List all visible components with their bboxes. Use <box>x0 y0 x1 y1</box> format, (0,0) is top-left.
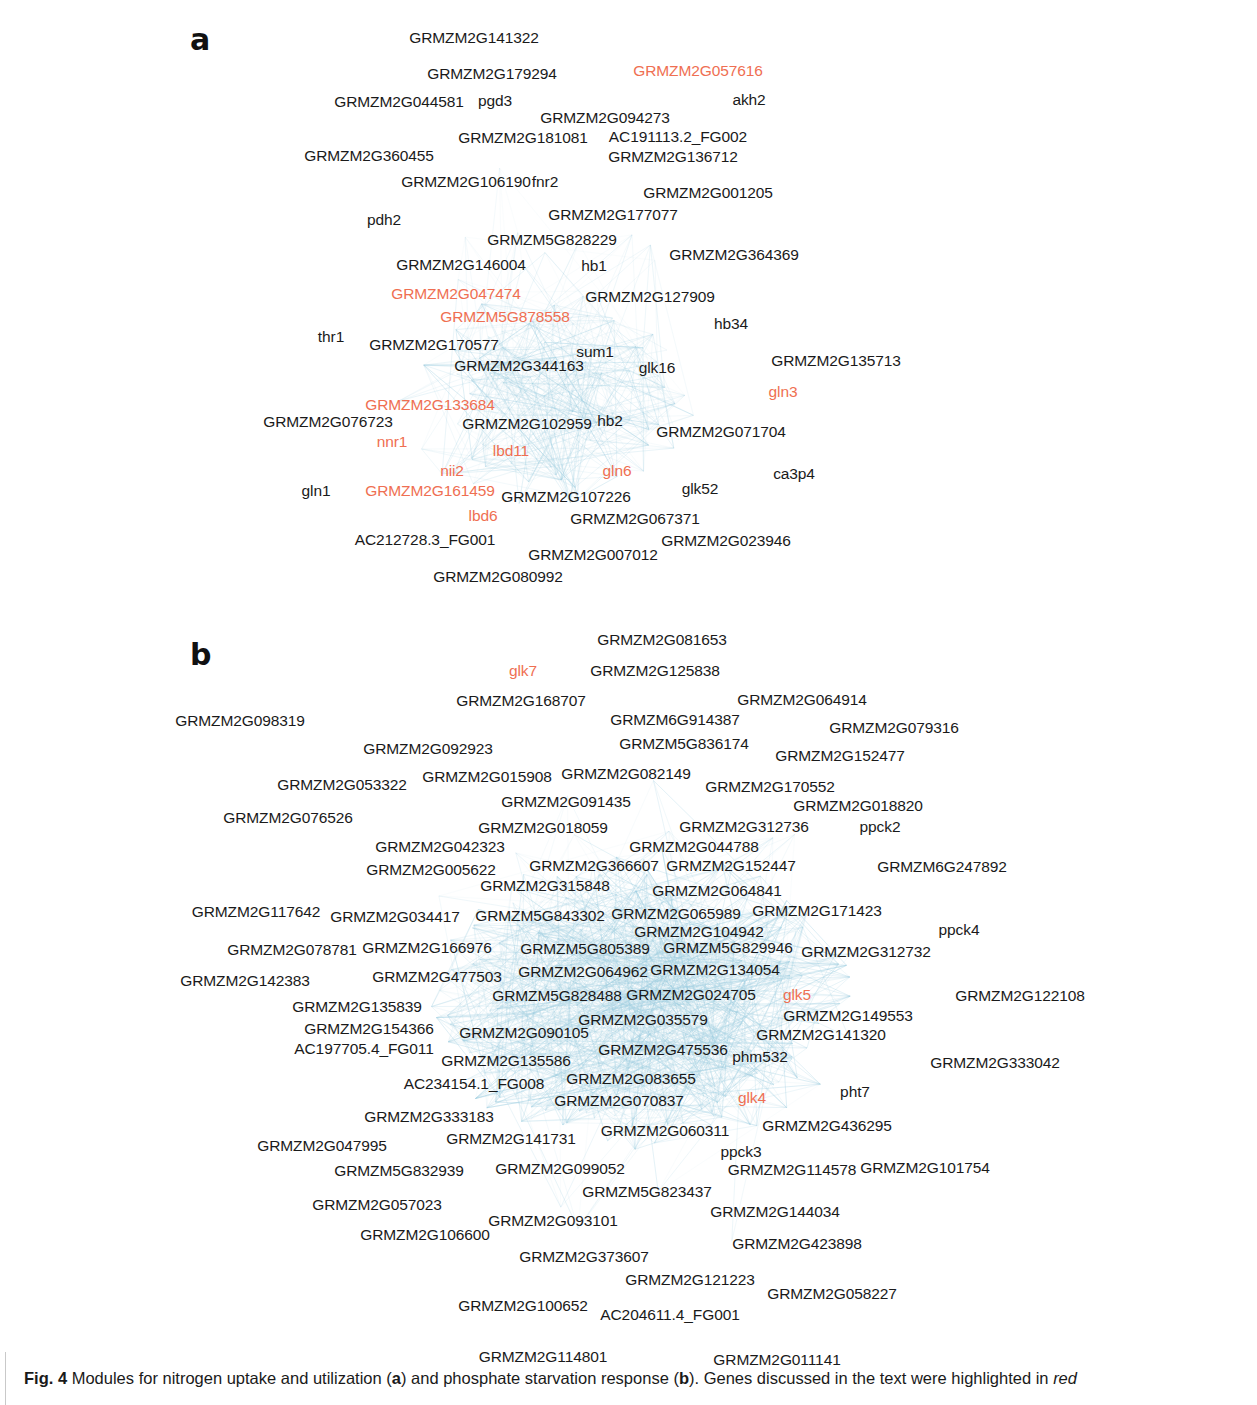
gene-node-label[interactable]: GRMZM5G832939 <box>334 1163 464 1179</box>
gene-node-label[interactable]: gln6 <box>603 463 632 479</box>
gene-node-label[interactable]: GRMZM2G333183 <box>364 1109 494 1125</box>
gene-node-label[interactable]: GRMZM2G060311 <box>601 1123 730 1139</box>
gene-node-label[interactable]: GRMZM2G117642 <box>192 904 321 920</box>
gene-node-label[interactable]: GRMZM2G064962 <box>518 964 648 980</box>
gene-node-label[interactable]: hb34 <box>714 316 748 332</box>
gene-node-label[interactable]: hb1 <box>581 258 607 274</box>
gene-node-label[interactable]: pht7 <box>840 1084 870 1100</box>
gene-node-label[interactable]: GRMZM2G065989 <box>611 906 741 922</box>
gene-node-label[interactable]: GRMZM2G171423 <box>752 903 882 919</box>
gene-node-label[interactable]: AC204611.4_FG001 <box>600 1307 739 1323</box>
gene-node-label[interactable]: GRMZM2G018820 <box>793 798 923 814</box>
gene-node-label[interactable]: GRMZM2G092923 <box>363 741 493 757</box>
gene-node-label[interactable]: GRMZM2G149553 <box>783 1008 913 1024</box>
gene-node-label[interactable]: glk52 <box>682 481 719 497</box>
gene-node-label[interactable]: GRMZM5G878558 <box>440 309 570 325</box>
gene-node-label[interactable]: GRMZM2G005622 <box>366 862 496 878</box>
gene-node-label[interactable]: GRMZM2G477503 <box>372 969 502 985</box>
gene-node-label[interactable]: GRMZM2G035579 <box>578 1012 708 1028</box>
gene-node-label[interactable]: GRMZM2G106600 <box>360 1227 490 1243</box>
gene-node-label[interactable]: GRMZM2G094273 <box>540 110 670 126</box>
gene-node-label[interactable]: AC191113.2_FG002 <box>609 129 747 145</box>
gene-node-label[interactable]: GRMZM2G078781 <box>227 942 357 958</box>
gene-node-label[interactable]: GRMZM2G093101 <box>488 1213 618 1229</box>
gene-node-label[interactable]: GRMZM2G152447 <box>666 858 796 874</box>
gene-node-label[interactable]: GRMZM2G360455 <box>304 148 434 164</box>
gene-node-label[interactable]: GRMZM2G161459 <box>365 483 495 499</box>
gene-node-label[interactable]: GRMZM2G023946 <box>661 533 791 549</box>
gene-node-label[interactable]: lbd6 <box>469 508 498 524</box>
gene-node-label[interactable]: gln3 <box>769 384 798 400</box>
gene-node-label[interactable]: GRMZM2G136712 <box>608 149 738 165</box>
gene-node-label[interactable]: GRMZM2G064841 <box>652 883 782 899</box>
gene-node-label[interactable]: GRMZM2G015908 <box>422 769 552 785</box>
gene-node-label[interactable]: GRMZM5G843302 <box>475 908 605 924</box>
gene-node-label[interactable]: GRMZM2G102959 <box>462 416 592 432</box>
gene-node-label[interactable]: GRMZM2G101754 <box>860 1160 990 1176</box>
gene-node-label[interactable]: GRMZM2G373607 <box>519 1249 649 1265</box>
gene-node-label[interactable]: GRMZM2G333042 <box>930 1055 1060 1071</box>
gene-node-label[interactable]: GRMZM2G423898 <box>732 1236 862 1252</box>
gene-node-label[interactable]: GRMZM2G114578 <box>728 1162 857 1178</box>
gene-node-label[interactable]: GRMZM2G179294 <box>427 66 557 82</box>
gene-node-label[interactable]: GRMZM2G044581 <box>334 94 464 110</box>
gene-node-label[interactable]: GRMZM2G146004 <box>396 257 526 273</box>
gene-node-label[interactable]: nii2 <box>440 463 464 479</box>
gene-node-label[interactable]: GRMZM2G053322 <box>277 777 407 793</box>
gene-node-label[interactable]: glk7 <box>509 663 537 679</box>
gene-node-label[interactable]: GRMZM2G047995 <box>257 1138 387 1154</box>
gene-node-label[interactable]: GRMZM2G064914 <box>737 692 867 708</box>
gene-node-label[interactable]: lbd11 <box>493 443 529 459</box>
gene-node-label[interactable]: thr1 <box>318 329 344 345</box>
gene-node-label[interactable]: GRMZM2G436295 <box>762 1118 892 1134</box>
gene-node-label[interactable]: GRMZM2G166976 <box>362 940 492 956</box>
gene-node-label[interactable]: GRMZM5G828488 <box>492 988 622 1004</box>
gene-node-label[interactable]: GRMZM2G133684 <box>365 397 495 413</box>
gene-node-label[interactable]: GRMZM2G011141 <box>713 1352 840 1368</box>
gene-node-label[interactable]: GRMZM2G177077 <box>548 207 678 223</box>
gene-node-label[interactable]: GRMZM2G057616 <box>633 63 763 79</box>
gene-node-label[interactable]: GRMZM5G823437 <box>582 1184 712 1200</box>
gene-node-label[interactable]: GRMZM2G058227 <box>767 1286 897 1302</box>
gene-node-label[interactable]: GRMZM2G315848 <box>480 878 610 894</box>
gene-node-label[interactable]: GRMZM2G076526 <box>223 810 353 826</box>
gene-node-label[interactable]: GRMZM2G083655 <box>566 1071 696 1087</box>
gene-node-label[interactable]: GRMZM2G070837 <box>554 1093 684 1109</box>
gene-node-label[interactable]: GRMZM5G836174 <box>619 736 749 752</box>
gene-node-label[interactable]: GRMZM2G018059 <box>478 820 608 836</box>
gene-node-label[interactable]: GRMZM2G122108 <box>955 988 1085 1004</box>
gene-node-label[interactable]: GRMZM2G127909 <box>585 289 715 305</box>
gene-node-label[interactable]: GRMZM2G107226 <box>501 489 631 505</box>
gene-node-label[interactable]: GRMZM2G067371 <box>570 511 700 527</box>
gene-node-label[interactable]: GRMZM2G080992 <box>433 569 563 585</box>
gene-node-label[interactable]: GRMZM2G366607 <box>529 858 659 874</box>
gene-node-label[interactable]: GRMZM2G042323 <box>375 839 505 855</box>
gene-node-label[interactable]: GRMZM2G170577 <box>369 337 499 353</box>
gene-node-label[interactable]: GRMZM6G914387 <box>610 712 740 728</box>
gene-node-label[interactable]: phm532 <box>732 1049 787 1065</box>
gene-node-label[interactable]: GRMZM2G312732 <box>801 944 931 960</box>
gene-node-label[interactable]: GRMZM2G135713 <box>771 353 901 369</box>
gene-node-label[interactable]: AC212728.3_FG001 <box>355 532 496 548</box>
gene-node-label[interactable]: GRMZM2G044788 <box>629 839 759 855</box>
gene-node-label[interactable]: GRMZM2G071704 <box>656 424 786 440</box>
gene-node-label[interactable]: GRMZM2G168707 <box>456 693 586 709</box>
gene-node-label[interactable]: GRMZM2G057023 <box>312 1197 442 1213</box>
gene-node-label[interactable]: GRMZM2G024705 <box>626 987 756 1003</box>
gene-node-label[interactable]: GRMZM2G154366 <box>304 1021 434 1037</box>
gene-node-label[interactable]: GRMZM2G475536 <box>598 1042 728 1058</box>
gene-node-label[interactable]: GRMZM2G134054 <box>650 962 780 978</box>
gene-node-label[interactable]: GRMZM2G141322 <box>409 30 539 46</box>
gene-node-label[interactable]: GRMZM2G106190 <box>401 174 531 190</box>
gene-node-label[interactable]: hb2 <box>597 413 623 429</box>
gene-node-label[interactable]: glk5 <box>783 987 811 1003</box>
gene-node-label[interactable]: GRMZM2G082149 <box>561 766 691 782</box>
gene-node-label[interactable]: GRMZM2G091435 <box>501 794 631 810</box>
gene-node-label[interactable]: GRMZM2G135586 <box>441 1053 571 1069</box>
gene-node-label[interactable]: GRMZM2G364369 <box>669 247 799 263</box>
gene-node-label[interactable]: GRMZM2G141731 <box>446 1131 576 1147</box>
gene-node-label[interactable]: ppck2 <box>860 819 901 835</box>
gene-node-label[interactable]: ppck3 <box>721 1144 762 1160</box>
gene-node-label[interactable]: glk4 <box>738 1090 766 1106</box>
gene-node-label[interactable]: GRMZM2G076723 <box>263 414 393 430</box>
